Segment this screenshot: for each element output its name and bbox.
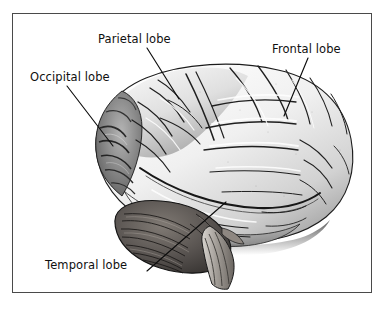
label-parietal-lobe: Parietal lobe — [98, 33, 171, 46]
label-frontal-lobe: Frontal lobe — [272, 43, 341, 56]
label-temporal-lobe: Temporal lobe — [45, 259, 127, 272]
label-occipital-lobe: Occipital lobe — [30, 71, 110, 84]
brain-diagram-figure: Parietal lobe Frontal lobe Occipital lob… — [0, 0, 391, 309]
